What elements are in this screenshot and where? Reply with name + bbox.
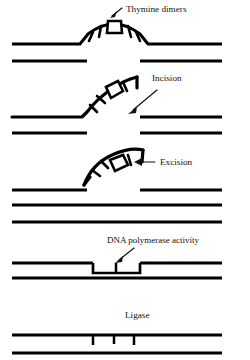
incision-label: Incision [152,73,182,83]
stage-dna-polymerase: DNA polymerase activity [12,222,222,278]
arrow-pointer-icon [110,11,117,18]
thymine-dimers-label: Thymine dimers [126,4,187,14]
helix-rung [92,170,100,176]
excised-fragment-free-end [142,150,143,162]
arrow-left-icon [134,158,142,166]
dna-repair-diagram: Thymine dimers Incision [0,0,250,360]
stage-incision: Incision [12,73,222,133]
thymine-dimer-icon [106,81,123,98]
dna-polymerase-label: DNA polymerase activity [107,235,199,245]
ligase-label: Ligase [125,310,150,320]
thymine-dimer-icon [107,21,122,33]
thymine-dimer-icon [110,155,128,171]
stage-excision: Excision [12,149,222,205]
stage-thymine-dimers: Thymine dimers [12,4,222,61]
stage-ligase: Ligase [12,310,222,353]
incision-leader [133,90,157,110]
excision-label: Excision [160,157,193,167]
helix-rung [101,161,108,168]
dna-repair-figure: Thymine dimers Incision [0,0,250,360]
